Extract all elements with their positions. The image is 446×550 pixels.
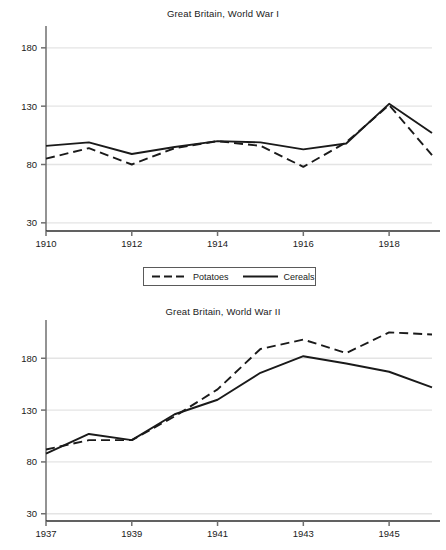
y-tick-label: 30 bbox=[26, 217, 37, 228]
legend-item-cereals[interactable]: Cereals bbox=[242, 268, 315, 285]
y-tick-label: 80 bbox=[26, 159, 37, 170]
series-line-cereals bbox=[46, 356, 432, 453]
x-tick-label: 1918 bbox=[379, 238, 400, 249]
x-tick-label: 1937 bbox=[35, 528, 56, 539]
y-tick-label: 30 bbox=[26, 508, 37, 519]
x-tick-label: 1941 bbox=[207, 528, 228, 539]
chart-page: Great Britain, World War I 3080130180191… bbox=[0, 0, 446, 550]
solid-line-icon bbox=[242, 271, 279, 282]
series-line-potatoes bbox=[46, 332, 432, 449]
x-tick-label: 1939 bbox=[121, 528, 142, 539]
plot-area-wwii: 308013018019371939194119431945 bbox=[0, 296, 446, 550]
x-tick-label: 1943 bbox=[293, 528, 314, 539]
y-tick-label: 130 bbox=[21, 101, 37, 112]
legend-label-cereals: Cereals bbox=[284, 272, 315, 282]
dashed-line-icon bbox=[151, 271, 188, 282]
y-tick-label: 180 bbox=[21, 353, 37, 364]
y-tick-label: 80 bbox=[26, 456, 37, 467]
chart-panel-wwi: Great Britain, World War I 3080130180191… bbox=[0, 0, 446, 258]
y-tick-label: 130 bbox=[21, 405, 37, 416]
x-tick-label: 1914 bbox=[207, 238, 228, 249]
x-tick-label: 1945 bbox=[379, 528, 400, 539]
x-tick-label: 1912 bbox=[121, 238, 142, 249]
chart-panel-wwii: Great Britain, World War II 308013018019… bbox=[0, 296, 446, 550]
y-tick-label: 180 bbox=[21, 42, 37, 53]
legend-item-potatoes[interactable]: Potatoes bbox=[151, 268, 229, 285]
x-tick-label: 1910 bbox=[35, 238, 56, 249]
chart-legend: Potatoes Cereals bbox=[143, 267, 316, 286]
series-line-potatoes bbox=[46, 105, 432, 167]
x-tick-label: 1916 bbox=[293, 238, 314, 249]
legend-label-potatoes: Potatoes bbox=[193, 272, 229, 282]
plot-area-wwi: 308013018019101912191419161918 bbox=[0, 0, 446, 258]
series-line-cereals bbox=[46, 104, 432, 154]
